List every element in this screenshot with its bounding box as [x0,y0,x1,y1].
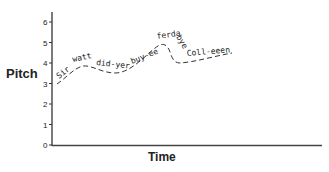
word-buy-ee: buy-ee [129,47,159,66]
word-watt: watt [72,51,93,64]
y-tick-2: 2 [43,100,48,109]
y-tick-3: 3 [43,80,48,89]
y-tick-6: 6 [43,18,48,27]
y-tick-0: 0 [43,141,48,150]
x-axis-label: Time [148,150,176,164]
word-sir: Sir [55,64,72,80]
word-ferdabye-2: bye [174,33,189,50]
word-did-yer: did-yer [96,58,131,70]
pitch-time-chart: 0 1 2 3 4 5 6 Sir watt did-yer buy-ee fe… [0,0,329,172]
word-coll-eeen: Coll-eeen [186,45,230,58]
y-ticks: 0 1 2 3 4 5 6 [43,18,52,150]
y-tick-1: 1 [43,121,48,130]
y-tick-5: 5 [43,39,48,48]
y-tick-4: 4 [43,59,48,68]
y-axis-label: Pitch [6,66,38,81]
